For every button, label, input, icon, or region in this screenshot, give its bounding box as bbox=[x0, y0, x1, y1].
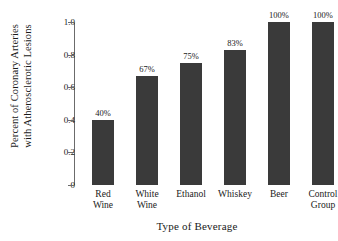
x-axis-tick-label-line: Group bbox=[295, 200, 338, 211]
x-axis-title: Type of Beverage bbox=[0, 220, 338, 232]
bar[interactable]: 67% bbox=[136, 76, 158, 185]
y-axis-title-line-1: Percent of Coronary Arteries bbox=[9, 24, 22, 148]
y-axis-title: Percent of Coronary Arteries with Athero… bbox=[5, 1, 39, 171]
bar[interactable]: 75% bbox=[180, 63, 202, 185]
bar-value-label: 100% bbox=[269, 10, 289, 20]
y-axis-tick-mark bbox=[68, 87, 75, 88]
bar-value-label: 100% bbox=[313, 10, 333, 20]
x-axis-tick-label-line: Wine bbox=[119, 200, 175, 211]
y-axis-tick-mark bbox=[68, 120, 75, 121]
bar[interactable]: 83% bbox=[224, 50, 246, 185]
bar-slot: 75% bbox=[170, 22, 212, 185]
y-axis-tick-mark bbox=[68, 185, 75, 186]
bar-value-label: 67% bbox=[139, 64, 155, 74]
x-axis-tick-label: ControlGroup bbox=[295, 189, 338, 211]
plot-area: 40%67%75%83%100%100% bbox=[80, 22, 335, 185]
bar-value-label: 40% bbox=[95, 108, 111, 118]
bar-slot: 100% bbox=[302, 22, 338, 185]
bar-slot: 100% bbox=[258, 22, 300, 185]
bar-value-label: 75% bbox=[183, 51, 199, 61]
y-axis-tick-mark bbox=[68, 55, 75, 56]
bar-value-label: 83% bbox=[227, 38, 243, 48]
bar-chart: Percent of Coronary Arteries with Athero… bbox=[0, 0, 338, 241]
bar[interactable]: 100% bbox=[312, 22, 334, 185]
y-axis-title-line-2: with Atherosclerotic Lesions bbox=[22, 24, 35, 148]
y-axis-tick-mark bbox=[68, 22, 75, 23]
bar[interactable]: 40% bbox=[92, 120, 114, 185]
bar-slot: 83% bbox=[214, 22, 256, 185]
bar-slot: 67% bbox=[126, 22, 168, 185]
x-axis-tick-label-line: Control bbox=[295, 189, 338, 200]
bar[interactable]: 100% bbox=[268, 22, 290, 185]
bar-slot: 40% bbox=[82, 22, 124, 185]
y-axis-tick-mark bbox=[68, 152, 75, 153]
y-axis-line bbox=[74, 22, 75, 185]
